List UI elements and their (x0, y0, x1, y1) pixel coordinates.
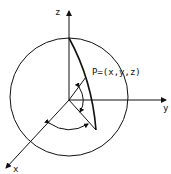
radius-to-P (69, 77, 86, 100)
y-axis-label: y (163, 104, 168, 113)
spherical-coordinates-diagram (0, 0, 171, 174)
meridian-arc (69, 38, 96, 130)
azimuth-angle-arc (49, 123, 88, 130)
point-p-label: P=(x,y,z) (92, 68, 141, 77)
z-axis-label: z (55, 8, 60, 17)
x-axis-label: x (13, 165, 18, 174)
x-axis (6, 100, 69, 168)
